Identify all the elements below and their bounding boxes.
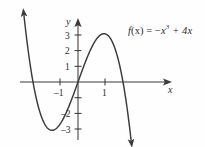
equation-lhs-arg: (x) xyxy=(131,25,144,36)
x-tick-label-1: 1 xyxy=(102,88,107,98)
equation-term2-text: + 4x xyxy=(172,25,192,36)
equation-annotation: f(x) = −x3 + 4x xyxy=(128,23,192,36)
y-tick-label-3: 3 xyxy=(65,31,70,41)
y-tick-label-1: 1 xyxy=(65,62,70,72)
function-graph-figure: x y –1 1 3 2 1 xyxy=(0,0,205,147)
equation-equals: = xyxy=(144,25,155,36)
x-tick-label--1: –1 xyxy=(53,88,64,98)
x-axis-tick-labels: –1 1 xyxy=(53,88,107,98)
y-axis-name: y xyxy=(65,16,71,27)
y-tick-label-2: 2 xyxy=(65,46,70,56)
y-tick-label--3: –3 xyxy=(60,125,71,135)
x-axis-name: x xyxy=(167,84,173,95)
x-axis-group: x xyxy=(20,78,173,95)
